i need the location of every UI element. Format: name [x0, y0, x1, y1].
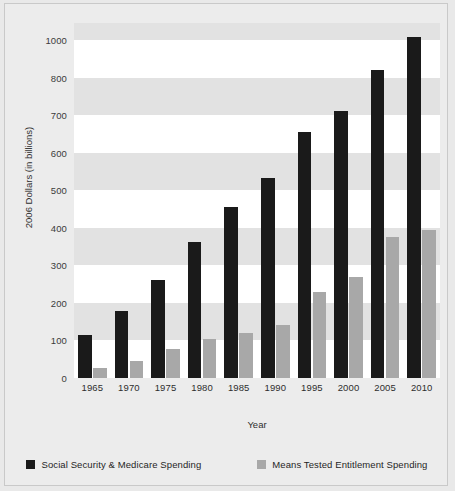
- x-axis-title: Year: [74, 419, 440, 430]
- bar-1990-series-1: [261, 178, 275, 378]
- chart-legend: Social Security & Medicare SpendingMeans…: [5, 459, 448, 470]
- bar-group: [188, 23, 217, 378]
- bar-1980-series-1: [188, 242, 202, 378]
- legend-item-series-1[interactable]: Social Security & Medicare Spending: [26, 459, 201, 470]
- y-axis-tick-label: 400: [51, 222, 67, 233]
- x-axis-ticks: 1965197019751980198519901995200020052010: [74, 382, 440, 398]
- chart-figure: 01002003004005006007008001000 2006 Dolla…: [4, 3, 448, 486]
- bar-group: [371, 23, 400, 378]
- y-axis-tick-label: 500: [51, 185, 67, 196]
- x-axis-tick-label: 2010: [411, 382, 433, 393]
- bar-group: [261, 23, 290, 378]
- bar-1970-series-1: [115, 311, 129, 378]
- legend-label: Social Security & Medicare Spending: [41, 459, 201, 470]
- bar-1970-series-2: [130, 361, 144, 378]
- bar-1990-series-2: [276, 325, 290, 378]
- bars-layer: [74, 23, 440, 378]
- bar-1965-series-2: [93, 368, 107, 379]
- legend-swatch-icon: [257, 460, 266, 469]
- x-axis-tick-label: 1990: [265, 382, 287, 393]
- plot-area: [74, 23, 440, 378]
- bar-group: [298, 23, 327, 378]
- y-axis-tick-label: 0: [62, 373, 67, 384]
- y-axis-title: 2006 Dollars (in billions): [23, 108, 34, 248]
- x-axis-tick-label: 1975: [155, 382, 177, 393]
- bar-1965-series-1: [78, 335, 92, 378]
- legend-item-series-2[interactable]: Means Tested Entitlement Spending: [257, 459, 427, 470]
- bar-1980-series-2: [203, 339, 217, 378]
- bar-1975-series-2: [166, 349, 180, 378]
- bar-2000-series-2: [349, 277, 363, 378]
- bar-group: [115, 23, 144, 378]
- y-axis-ticks: 01002003004005006007008001000: [5, 4, 74, 398]
- x-axis-tick-label: 1995: [301, 382, 323, 393]
- x-axis-tick-label: 1970: [118, 382, 140, 393]
- y-axis-tick-label: 700: [51, 110, 67, 121]
- x-axis-tick-label: 1980: [191, 382, 213, 393]
- y-axis-tick-label: 100: [51, 335, 67, 346]
- bar-1985-series-2: [239, 333, 253, 378]
- bar-2005-series-2: [386, 237, 400, 378]
- bar-group: [334, 23, 363, 378]
- legend-label: Means Tested Entitlement Spending: [272, 459, 427, 470]
- bar-2010-series-2: [422, 230, 436, 378]
- bar-2000-series-1: [334, 111, 348, 378]
- bar-group: [151, 23, 180, 378]
- y-axis-tick-label: 300: [51, 260, 67, 271]
- legend-swatch-icon: [26, 460, 35, 469]
- bar-1995-series-1: [298, 132, 312, 378]
- bar-group: [224, 23, 253, 378]
- bar-2010-series-1: [407, 37, 421, 378]
- y-axis-tick-label: 800: [51, 72, 67, 83]
- x-axis-tick-label: 2005: [374, 382, 396, 393]
- bar-1985-series-1: [224, 207, 238, 378]
- bar-1975-series-1: [151, 280, 165, 378]
- bar-group: [407, 23, 436, 378]
- y-axis-tick-label: 200: [51, 297, 67, 308]
- y-axis-tick-label: 1000: [45, 35, 67, 46]
- bar-group: [78, 23, 107, 378]
- x-axis-tick-label: 2000: [338, 382, 360, 393]
- y-axis-tick-label: 600: [51, 147, 67, 158]
- bar-2005-series-1: [371, 70, 385, 378]
- x-axis-tick-label: 1965: [82, 382, 104, 393]
- x-axis-tick-label: 1985: [228, 382, 250, 393]
- bar-1995-series-2: [313, 292, 327, 378]
